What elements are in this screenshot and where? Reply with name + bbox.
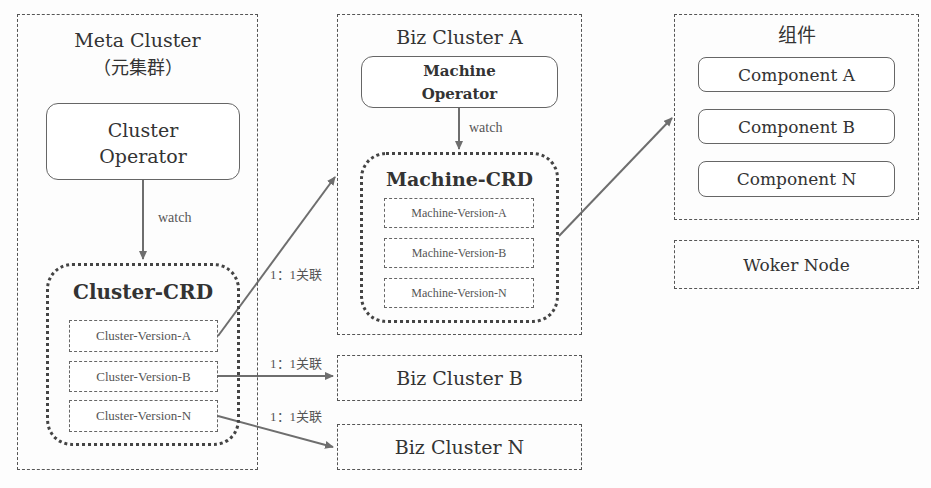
cluster-operator-box[interactable]: Cluster Operator bbox=[46, 103, 240, 180]
relation-label-b: 1：1关联 bbox=[270, 353, 322, 372]
worker-node-box[interactable]: Woker Node bbox=[674, 240, 919, 289]
components-title: 组件 bbox=[674, 20, 919, 46]
cluster-version-b[interactable]: Cluster-Version-B bbox=[69, 361, 218, 392]
machine-version-a[interactable]: Machine-Version-A bbox=[384, 198, 534, 228]
meta-cluster-title: Meta Cluster bbox=[17, 28, 258, 52]
cluster-operator-line2: Operator bbox=[47, 144, 239, 168]
component-b[interactable]: Component B bbox=[698, 109, 895, 144]
machine-version-n[interactable]: Machine-Version-N bbox=[384, 278, 534, 308]
relation-label-n: 1：1关联 bbox=[270, 406, 322, 425]
biz-cluster-a-title: Biz Cluster A bbox=[337, 24, 582, 50]
cluster-version-a[interactable]: Cluster-Version-A bbox=[69, 320, 218, 352]
relation-label-a: 1：1关联 bbox=[270, 264, 322, 283]
biz-cluster-b-box[interactable]: Biz Cluster B bbox=[337, 355, 582, 401]
machine-operator-line2: Operator bbox=[362, 84, 557, 104]
machine-operator-box[interactable]: Machine Operator bbox=[361, 56, 558, 108]
meta-cluster-subtitle: （元集群） bbox=[17, 54, 258, 78]
cluster-version-n[interactable]: Cluster-Version-N bbox=[69, 400, 218, 432]
cluster-operator-line1: Cluster bbox=[47, 118, 239, 142]
watch-label-machine: watch bbox=[469, 120, 502, 136]
component-n[interactable]: Component N bbox=[698, 161, 895, 197]
cluster-crd-title: Cluster-CRD bbox=[46, 279, 240, 305]
machine-version-b[interactable]: Machine-Version-B bbox=[384, 238, 534, 268]
machine-operator-line1: Machine bbox=[362, 61, 557, 81]
component-a[interactable]: Component A bbox=[698, 57, 895, 92]
biz-cluster-n-box[interactable]: Biz Cluster N bbox=[337, 424, 582, 470]
machine-crd-title: Machine-CRD bbox=[360, 167, 559, 191]
watch-label-cluster: watch bbox=[158, 210, 191, 226]
